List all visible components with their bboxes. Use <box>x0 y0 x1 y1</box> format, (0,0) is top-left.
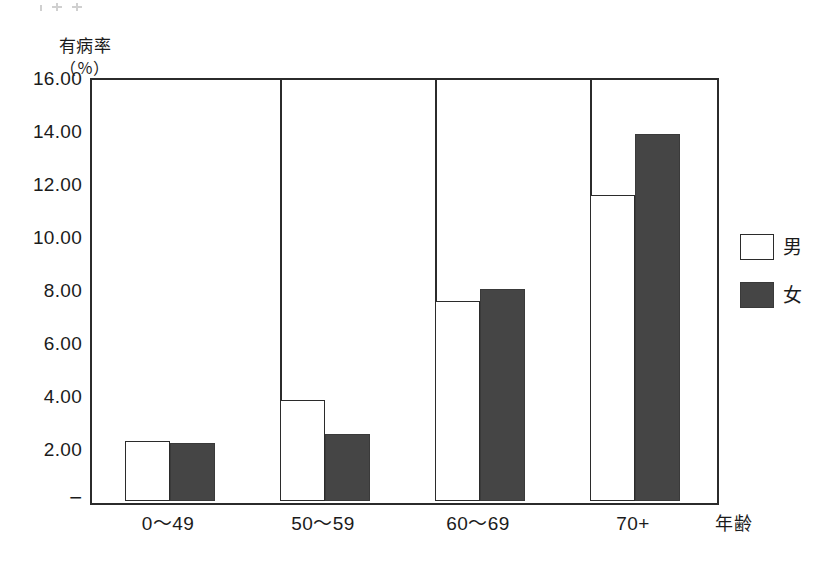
y-tick-label: 8.00 <box>2 281 82 300</box>
legend-label-female: 女 <box>783 286 802 305</box>
y-axis-tick-labels: 16.00 14.00 12.00 10.00 8.00 6.00 4.00 2… <box>0 0 82 571</box>
x-axis-tick-labels: 0〜49 50〜59 60〜69 70+ 年齢 <box>90 512 830 552</box>
bar-group-50-59 <box>280 80 370 501</box>
bar-female-60-69 <box>480 289 525 501</box>
y-tick-label-zero: − <box>2 488 82 507</box>
bar-group-0-49 <box>125 80 215 501</box>
bars-layer <box>92 80 715 501</box>
y-tick-label: 14.00 <box>2 122 82 141</box>
y-tick-label: 12.00 <box>2 175 82 194</box>
bar-female-50-59 <box>325 434 370 501</box>
x-tick-label-70-plus: 70+ <box>558 512 708 536</box>
legend-swatch-male-icon <box>740 234 774 260</box>
bar-female-0-49 <box>170 443 215 501</box>
x-tick-label-50-59: 50〜59 <box>248 512 398 536</box>
y-tick-label: 16.00 <box>2 69 82 88</box>
legend-label-male: 男 <box>783 238 802 257</box>
bar-male-0-49 <box>125 441 170 502</box>
x-tick-label-60-69: 60〜69 <box>403 512 553 536</box>
bar-male-70-plus <box>590 195 635 502</box>
bar-group-70-plus <box>590 80 680 501</box>
x-tick-label-0-49: 0〜49 <box>93 512 243 536</box>
legend-item-female: 女 <box>740 280 832 310</box>
legend-swatch-female-icon <box>740 282 774 308</box>
y-tick-label: 2.00 <box>2 440 82 459</box>
bar-male-50-59 <box>280 400 325 501</box>
bar-female-70-plus <box>635 134 680 501</box>
x-axis-title: 年齢 <box>715 512 805 536</box>
bar-group-60-69 <box>435 80 525 501</box>
prevalence-by-age-bar-chart: 有病率 （％） 16.00 14.00 12.00 10.00 8.00 6.0… <box>0 0 832 571</box>
y-tick-label: 4.00 <box>2 387 82 406</box>
legend: 男 女 <box>740 232 832 328</box>
legend-item-male: 男 <box>740 232 832 262</box>
y-tick-label: 6.00 <box>2 334 82 353</box>
y-tick-label: 10.00 <box>2 228 82 247</box>
bar-male-60-69 <box>435 301 480 501</box>
